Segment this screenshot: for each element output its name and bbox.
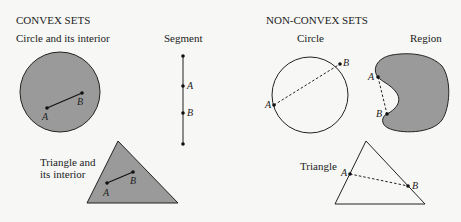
convex-circle-label: Circle and its interior bbox=[16, 32, 110, 44]
convex-triangle-figure bbox=[87, 141, 178, 203]
convex-triangle-point-a: A bbox=[103, 188, 109, 198]
convex-sets-heading: CONVEX SETS bbox=[16, 14, 90, 26]
convex-circle-point-a: A bbox=[42, 112, 48, 122]
nonconvex-triangle-point-b: B bbox=[412, 181, 418, 191]
convex-circle-point-b: B bbox=[77, 97, 83, 107]
convex-segment-point-b: B bbox=[187, 108, 193, 118]
convex-triangle-label-line1: Triangle and bbox=[40, 156, 96, 168]
nonconvex-triangle-point-a: A bbox=[341, 168, 347, 178]
nonconvex-circle-point-a: A bbox=[265, 100, 271, 110]
convex-circle-figure bbox=[20, 52, 100, 132]
nonconvex-circle-figure bbox=[272, 57, 348, 133]
nonconvex-circle-point-b: B bbox=[343, 58, 349, 68]
nonconvex-region-point-b: B bbox=[376, 109, 382, 119]
convex-segment-figure bbox=[181, 54, 185, 146]
nonconvex-triangle-label: Triangle bbox=[300, 160, 337, 172]
convex-segment-label: Segment bbox=[164, 32, 203, 44]
convex-triangle-label-line2: its interior bbox=[40, 168, 86, 180]
nonconvex-circle-label: Circle bbox=[297, 32, 324, 44]
convex-triangle-point-b: B bbox=[130, 176, 136, 186]
nonconvex-region-label: Region bbox=[410, 32, 442, 44]
nonconvex-triangle-figure bbox=[335, 141, 425, 204]
nonconvex-region-point-a: A bbox=[368, 72, 374, 82]
nonconvex-sets-heading: NON-CONVEX SETS bbox=[266, 14, 368, 26]
convex-segment-point-a: A bbox=[187, 81, 193, 91]
nonconvex-region-figure bbox=[375, 54, 448, 132]
